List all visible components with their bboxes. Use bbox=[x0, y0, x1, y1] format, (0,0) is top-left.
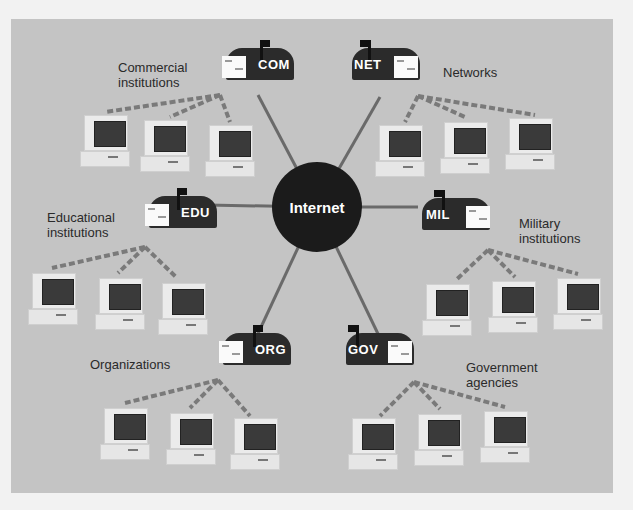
computer-gov-3 bbox=[480, 411, 530, 463]
mailbox-edu: EDU bbox=[143, 188, 221, 230]
connection-lines bbox=[0, 0, 633, 510]
label-mil: Military institutions bbox=[519, 216, 580, 246]
computer-net-1 bbox=[375, 125, 425, 177]
mailbox-label-mil: MIL bbox=[426, 207, 450, 222]
computer-org-3 bbox=[230, 418, 280, 470]
mailbox-net: NET bbox=[346, 40, 424, 82]
computer-edu-1 bbox=[28, 273, 78, 325]
mailbox-label-edu: EDU bbox=[181, 205, 210, 220]
computer-mil-2 bbox=[488, 281, 538, 333]
mailbox-gov: GOV bbox=[340, 325, 418, 367]
computer-edu-2 bbox=[95, 278, 145, 330]
computer-mil-3 bbox=[553, 278, 603, 330]
mailbox-label-net: NET bbox=[354, 57, 382, 72]
internet-hub: Internet bbox=[272, 162, 362, 252]
internet-label: Internet bbox=[289, 199, 344, 216]
computer-org-2 bbox=[166, 413, 216, 465]
computer-gov-2 bbox=[414, 414, 464, 466]
computer-org-1 bbox=[100, 408, 150, 460]
mailbox-mil: MIL bbox=[416, 190, 494, 232]
label-net: Networks bbox=[443, 65, 497, 80]
computer-com-3 bbox=[205, 125, 255, 177]
label-gov: Government agencies bbox=[466, 360, 538, 390]
mailbox-org: ORG bbox=[217, 325, 295, 367]
label-edu: Educational institutions bbox=[47, 210, 115, 240]
mailbox-label-com: COM bbox=[258, 57, 290, 72]
computer-edu-3 bbox=[158, 283, 208, 335]
computer-gov-1 bbox=[348, 418, 398, 470]
computer-com-1 bbox=[80, 115, 130, 167]
mailbox-label-org: ORG bbox=[255, 342, 286, 357]
computer-com-2 bbox=[140, 120, 190, 172]
computer-mil-1 bbox=[422, 284, 472, 336]
mailbox-com: COM bbox=[220, 40, 298, 82]
mailbox-label-gov: GOV bbox=[348, 342, 378, 357]
computer-net-2 bbox=[440, 122, 490, 174]
computer-net-3 bbox=[505, 118, 555, 170]
label-org: Organizations bbox=[90, 357, 170, 372]
label-com: Commercial institutions bbox=[118, 60, 187, 90]
